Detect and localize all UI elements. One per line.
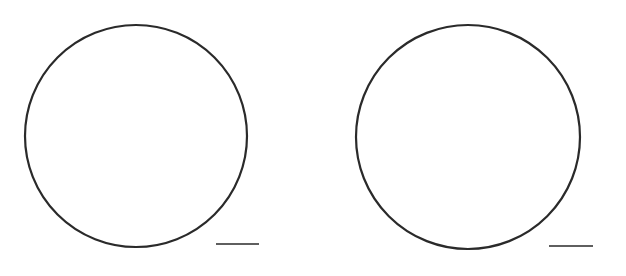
figure-canvas (0, 0, 626, 276)
panel-left (25, 25, 259, 247)
panel-right (356, 25, 593, 249)
circle-outline (25, 25, 247, 247)
circle-outline (356, 25, 580, 249)
